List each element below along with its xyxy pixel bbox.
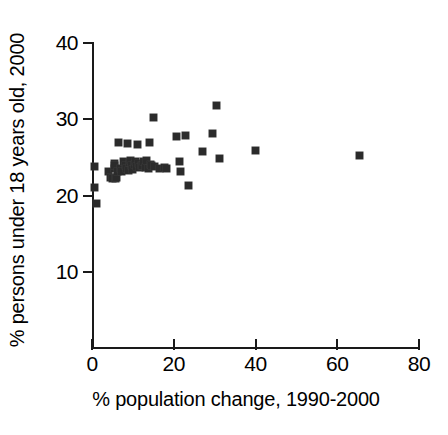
data-point [163, 165, 170, 172]
data-point [356, 152, 363, 159]
data-point [124, 140, 131, 147]
data-point [150, 114, 157, 121]
x-axis-tick-label-60: 60 [317, 353, 357, 374]
data-point [177, 168, 184, 175]
y-axis-tick-20 [83, 195, 94, 197]
data-point [115, 139, 122, 146]
data-point [209, 130, 216, 137]
data-point [252, 147, 259, 154]
x-axis-tick-label-20: 20 [154, 353, 194, 374]
y-axis-tick-label-10: 10 [32, 261, 78, 282]
x-axis-tick-60 [336, 339, 338, 350]
data-point [213, 102, 220, 109]
data-point [146, 139, 153, 146]
data-point [113, 174, 120, 181]
data-point [176, 158, 183, 165]
x-axis-label: % population change, 1990-2000 [56, 388, 416, 411]
data-point [185, 182, 192, 189]
x-axis-tick-20 [173, 339, 175, 350]
y-axis-tick-10 [83, 271, 94, 273]
data-point [134, 141, 141, 148]
y-axis-tick-label-30: 30 [32, 108, 78, 129]
x-axis-tick-0 [91, 339, 93, 350]
y-axis-tick-30 [83, 118, 94, 120]
scatter-plot-figure: % persons under 18 years old, 2000 % pop… [0, 0, 448, 435]
y-axis-tick-40 [83, 42, 94, 44]
x-axis-tick-label-40: 40 [236, 353, 276, 374]
data-point [216, 155, 223, 162]
y-axis-label: % persons under 18 years old, 2000 [0, 0, 34, 380]
data-point [91, 184, 98, 191]
x-axis-tick-40 [255, 339, 257, 350]
data-point [182, 132, 189, 139]
x-axis-tick-80 [418, 339, 420, 350]
data-point [93, 200, 100, 207]
data-point [199, 148, 206, 155]
y-axis-tick-label-20: 20 [32, 185, 78, 206]
data-point [91, 163, 98, 170]
x-axis-tick-label-80: 80 [399, 353, 439, 374]
x-axis-tick-label-0: 0 [72, 353, 112, 374]
y-axis-tick-label-40: 40 [32, 32, 78, 53]
data-point [173, 133, 180, 140]
